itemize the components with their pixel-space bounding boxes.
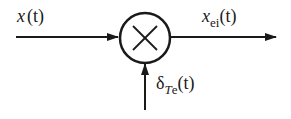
- output-label: xei(t): [201, 6, 236, 30]
- multiplier-node: [120, 13, 170, 63]
- multiplier-diagram: x(t) xei(t) δTe(t): [0, 0, 291, 119]
- side-input-label: δTe(t): [156, 73, 195, 97]
- input-label: x(t): [16, 6, 44, 27]
